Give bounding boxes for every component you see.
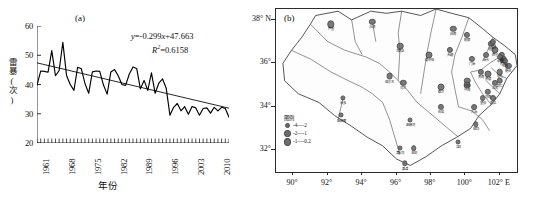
legend-title: 图例 [284, 116, 311, 122]
region-label: 门源 [469, 61, 475, 66]
region-label: 囊谦 [402, 165, 408, 170]
region-label: 乌兰 [400, 85, 406, 90]
map-x-tick-label: 100° [450, 178, 478, 187]
x-tick-label: 2003 [196, 159, 206, 175]
legend-row: -4—-2 [284, 123, 311, 128]
region-label: 久治 [471, 109, 477, 114]
map-y-tick-label: 32° [245, 144, 271, 153]
legend-dot-icon [285, 123, 290, 128]
region-label: 循化 [505, 67, 511, 72]
legend-label: -2—-1 [293, 131, 307, 136]
region-label: 曲麻莱 [337, 117, 346, 122]
region-label: 曲麻河 [406, 122, 415, 127]
region-label: 芦塞 [328, 26, 334, 31]
region-label: 贵南 [478, 74, 484, 79]
region-label: 瓪达 [490, 100, 496, 105]
x-tick-label: 1982 [119, 159, 129, 175]
region-label: 大柴旦 [396, 48, 405, 53]
map-x-tick-label: 98° [416, 178, 444, 187]
panel-a-timeseries: (a) 雷暴(次) 年份 y=-0.299x+47.663 R2=0.6158 … [0, 0, 258, 200]
x-tick-label: 1996 [170, 159, 180, 175]
legend-dot-icon [284, 138, 291, 146]
figure-container: (a) 雷暴(次) 年份 y=-0.299x+47.663 R2=0.6158 … [0, 0, 534, 200]
region-label: 同仁 [497, 82, 503, 87]
region-label: 玉树 [411, 150, 417, 155]
map-x-tick-label: 90° [278, 178, 306, 187]
legend-label: -4—-2 [293, 123, 307, 128]
region-label: 苏南 [450, 30, 456, 35]
y-tick-label: 40 [13, 80, 33, 90]
map-y-tick-label: 34° [245, 101, 271, 110]
region-label: 达日 [456, 143, 462, 148]
map-x-tick-label: 102° E [485, 178, 513, 187]
region-label: 班玛 [473, 126, 479, 131]
y-tick-label: 20 [13, 138, 33, 148]
region-label: 泽库 [492, 85, 498, 90]
region-label: 兴海 [464, 87, 470, 92]
region-label: 贵德 [485, 76, 491, 81]
panel-a-label: (a) [75, 13, 85, 23]
x-tick-label: 2010 [222, 159, 232, 175]
panel-b-label: (b) [284, 13, 295, 23]
region-label: 刚察 [464, 37, 470, 42]
x-tick-label: 1968 [67, 159, 77, 175]
legend-rows: -4—-2-2—-1-1—-0.2 [284, 123, 311, 146]
region-label: 源头 [483, 56, 489, 61]
region-label: 格尔木 [385, 78, 394, 83]
y-tick-label: 30 [13, 109, 33, 119]
region-label: 冷湖 [369, 24, 375, 29]
region-label: 尖扎 [497, 74, 503, 79]
legend-row: -1—-0.2 [284, 138, 311, 146]
region-label: 都兰 [438, 89, 444, 94]
map-x-tick-label: 94° [347, 178, 375, 187]
map-frame: (b) 芦塞冷湖大柴旦德令哈天峻门源苏南格尔木乌兰都兰共和治多曲麻莱曲麻河清水河… [275, 8, 518, 173]
y-tick-label: 50 [13, 50, 33, 60]
x-tick-label: 1975 [93, 159, 103, 175]
region-label: 石渠 [438, 109, 444, 114]
legend-dot-icon [284, 130, 290, 136]
region-label: 西宁 [492, 52, 498, 57]
map-y-tick-label: 38° N [245, 14, 271, 23]
legend-label: -1—-0.2 [293, 139, 311, 144]
region-label: 河南 [485, 93, 491, 98]
x-axis-label-a: 年份 [98, 178, 118, 192]
timeseries-svg [37, 26, 229, 143]
region-label: 清水河 [396, 150, 405, 155]
y-tick-label: 60 [13, 21, 33, 31]
map-y-tick-label: 36° [245, 57, 271, 66]
region-label: 治多 [340, 100, 346, 105]
region-label: 天峻 [447, 52, 453, 57]
x-tick-label: 1961 [41, 159, 51, 175]
panel-b-map: 38° N36°34°32° 90°92°94°96°98°100°102° E… [258, 0, 534, 200]
region-label: 大通 [490, 43, 496, 48]
region-label: 德令哈 [425, 56, 434, 61]
plot-area-a [37, 26, 229, 143]
map-legend: 图例 -4—-2-2—-1-1—-0.2 [284, 116, 311, 146]
map-x-tick-label: 92° [313, 178, 341, 187]
region-label: 望谟 [480, 100, 486, 105]
x-tick-label: 1989 [144, 159, 154, 175]
map-x-tick-label: 96° [382, 178, 410, 187]
legend-row: -2—-1 [284, 130, 311, 136]
